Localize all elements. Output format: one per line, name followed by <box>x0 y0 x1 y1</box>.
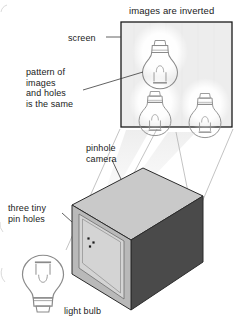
edge-artifact-top <box>1 5 7 12</box>
diagram-canvas <box>0 0 240 331</box>
pin-hole-2 <box>92 241 94 243</box>
pin-hole-1 <box>87 237 89 239</box>
edge-artifact-group <box>0 5 7 282</box>
pinhole-camera-box <box>72 168 203 310</box>
edge-artifact-mid <box>0 222 3 232</box>
label-pattern-of-images: pattern of images and holes is the same <box>26 67 73 109</box>
label-light-bulb: light bulb <box>64 306 101 317</box>
pin-hole-3 <box>89 245 91 247</box>
screen-panel <box>121 22 232 138</box>
pinhole-camera-diagram: images are inverted screen pattern of im… <box>0 0 240 331</box>
label-screen: screen <box>68 33 96 44</box>
light-bulb-object <box>22 255 63 312</box>
label-pinhole-camera: pinhole camera <box>86 143 117 164</box>
edge-artifact-low <box>1 268 5 282</box>
label-three-tiny-pin-holes: three tiny pin holes <box>8 203 46 224</box>
diagram-title: images are inverted <box>129 6 214 17</box>
